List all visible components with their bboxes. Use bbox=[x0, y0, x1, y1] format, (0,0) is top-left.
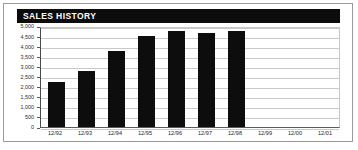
y-axis-tick-mark bbox=[37, 87, 40, 88]
x-axis-tick-label: 12/97 bbox=[198, 131, 212, 137]
y-axis-tick-label: 3,500 bbox=[0, 55, 34, 60]
gridline bbox=[41, 58, 339, 59]
bar bbox=[138, 36, 155, 127]
bar bbox=[78, 71, 95, 127]
x-axis-tick-label: 12/99 bbox=[258, 131, 272, 137]
y-axis-tick-label: 5,000 bbox=[0, 24, 34, 29]
y-axis-tick-mark bbox=[37, 27, 40, 28]
sales-history-chart-figure: SALES HISTORY 05001,0001,5002,0002,5003,… bbox=[0, 0, 358, 150]
y-axis-tick-mark bbox=[37, 117, 40, 118]
y-axis-tick-label: 4,000 bbox=[0, 45, 34, 50]
bar bbox=[168, 31, 185, 127]
y-axis-tick-label: 3,000 bbox=[0, 65, 34, 70]
y-axis-tick-mark bbox=[37, 67, 40, 68]
gridline bbox=[41, 38, 339, 39]
x-axis-tick-label: 12/94 bbox=[108, 131, 122, 137]
x-axis-tick-label: 12/98 bbox=[228, 131, 242, 137]
x-axis-tick-label: 12/00 bbox=[288, 131, 302, 137]
page-title: SALES HISTORY bbox=[23, 12, 96, 21]
y-axis-tick-mark bbox=[37, 57, 40, 58]
y-axis-tick-label: 2,000 bbox=[0, 85, 34, 90]
y-axis-tick-mark bbox=[37, 77, 40, 78]
chart-title-bar: SALES HISTORY bbox=[17, 9, 340, 23]
y-axis-tick-label: 2,500 bbox=[0, 75, 34, 80]
y-axis-tick-label: 4,500 bbox=[0, 35, 34, 40]
gridline bbox=[41, 68, 339, 69]
gridline bbox=[41, 28, 339, 29]
plot-area bbox=[40, 27, 340, 128]
bar bbox=[48, 82, 65, 127]
gridline bbox=[41, 48, 339, 49]
x-axis-tick-label: 12/92 bbox=[48, 131, 62, 137]
y-axis-tick-mark bbox=[37, 97, 40, 98]
bar bbox=[198, 33, 215, 127]
bar bbox=[108, 51, 125, 127]
y-axis-tick-label: 500 bbox=[0, 115, 34, 120]
y-axis-tick-label: 0 bbox=[0, 125, 34, 130]
y-axis-tick-mark bbox=[37, 107, 40, 108]
x-axis-tick-label: 12/96 bbox=[168, 131, 182, 137]
x-axis-tick-label: 12/93 bbox=[78, 131, 92, 137]
x-axis-tick-label: 12/95 bbox=[138, 131, 152, 137]
y-axis-tick-mark bbox=[37, 128, 40, 129]
y-axis-tick-label: 1,000 bbox=[0, 105, 34, 110]
bar bbox=[228, 31, 245, 127]
y-axis-tick-mark bbox=[37, 47, 40, 48]
y-axis-tick-mark bbox=[37, 37, 40, 38]
y-axis-tick-label: 1,500 bbox=[0, 95, 34, 100]
x-axis-tick-label: 12/01 bbox=[318, 131, 332, 137]
